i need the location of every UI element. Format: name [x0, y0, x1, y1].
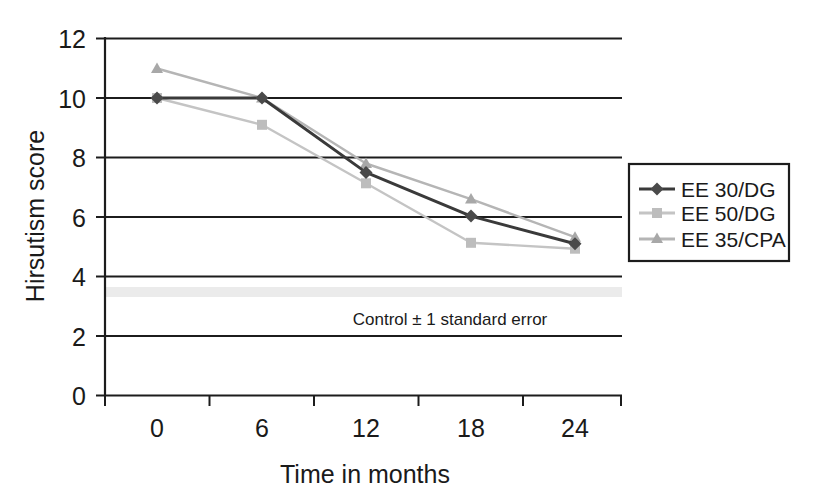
series-line-ee-35-cpa — [157, 69, 575, 238]
legend-label-ee-30-dg: EE 30/DG — [681, 178, 776, 201]
control-band — [104, 287, 622, 297]
x-axis-title: Time in months — [280, 460, 450, 488]
marker-square-3 — [466, 238, 476, 248]
marker-square-1 — [257, 120, 267, 130]
marker-triangle-0 — [151, 63, 163, 74]
y-tick-label-10: 10 — [58, 85, 86, 113]
y-tick-label-12: 12 — [58, 25, 86, 53]
y-tick-label-4: 4 — [72, 263, 86, 291]
y-tick-label-6: 6 — [72, 204, 86, 232]
legend-label-ee-35-cpa: EE 35/CPA — [681, 228, 786, 251]
y-tick-label-2: 2 — [72, 323, 86, 351]
series-ee-35-cpa — [151, 63, 581, 242]
series-ee-30-dg — [151, 92, 582, 251]
x-tick-label-24: 24 — [561, 414, 589, 442]
x-tick-label-6: 6 — [255, 414, 269, 442]
x-tick-label-18: 18 — [457, 414, 485, 442]
marker-square-2 — [361, 178, 371, 188]
chart-legend: EE 30/DG EE 50/DG EE 35/CPA — [629, 164, 789, 261]
marker-diamond-3 — [465, 210, 478, 223]
y-tick-label-0: 0 — [72, 382, 86, 410]
y-axis — [96, 37, 105, 396]
y-axis-title: Hirsutism score — [21, 130, 49, 302]
x-tick-label-12: 12 — [352, 414, 380, 442]
x-axis — [104, 396, 622, 407]
legend-marker-square — [652, 208, 662, 218]
y-tick-label-8: 8 — [72, 144, 86, 172]
chart-figure: 12 10 8 6 4 2 0 0 6 12 18 24 Time in mon… — [0, 0, 825, 497]
x-tick-label-0: 0 — [150, 414, 164, 442]
line-chart: 12 10 8 6 4 2 0 0 6 12 18 24 Time in mon… — [0, 0, 825, 497]
control-band-label: Control ± 1 standard error — [353, 310, 548, 329]
legend-label-ee-50-dg: EE 50/DG — [681, 202, 776, 225]
